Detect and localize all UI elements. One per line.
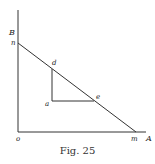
label-d: d	[52, 59, 57, 67]
label-a: a	[45, 100, 49, 108]
label-B: B	[8, 28, 15, 37]
diagram-figure: B n d a e o m A Fig. 25	[0, 0, 155, 164]
label-n: n	[11, 39, 16, 47]
line-nm	[18, 43, 136, 132]
diagram-canvas: B n d a e o m A	[0, 0, 155, 164]
label-o: o	[16, 135, 20, 143]
label-e: e	[96, 93, 100, 101]
figure-caption: Fig. 25	[0, 145, 155, 156]
label-A: A	[145, 134, 152, 143]
label-m: m	[131, 135, 138, 143]
